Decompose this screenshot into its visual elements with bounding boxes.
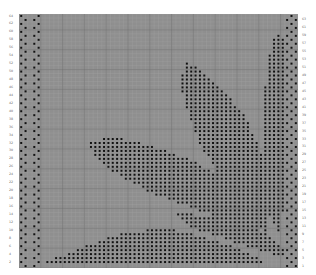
row-label: 40 [9, 110, 13, 113]
row-label: 36 [9, 126, 13, 129]
row-label: 39 [302, 114, 306, 117]
row-label: 18 [9, 197, 13, 200]
row-label: 22 [9, 181, 13, 184]
row-label: 31 [302, 145, 306, 148]
row-label: 21 [302, 185, 306, 188]
row-label: 45 [302, 90, 306, 93]
row-label: 50 [9, 70, 13, 73]
right-row-labels: 6361595755535149474543413937353331292725… [299, 14, 316, 268]
row-label: 47 [302, 82, 306, 85]
row-label: 14 [9, 213, 13, 216]
row-label: 6 [9, 245, 11, 248]
row-label: 51 [302, 66, 306, 69]
knitting-chart-grid [19, 14, 298, 268]
row-label: 24 [9, 173, 13, 176]
row-label: 9 [302, 233, 304, 236]
row-label: 53 [302, 58, 306, 61]
row-label: 37 [302, 122, 306, 125]
row-label: 59 [302, 34, 306, 37]
row-label: 32 [9, 142, 13, 145]
row-label: 29 [302, 153, 306, 156]
row-label: 56 [9, 46, 13, 49]
row-label: 8 [9, 237, 11, 240]
row-label: 5 [302, 249, 304, 252]
row-label: 2 [9, 261, 11, 264]
row-label: 15 [302, 209, 306, 212]
row-label: 57 [302, 42, 306, 45]
row-label: 13 [302, 217, 306, 220]
chart-canvas [19, 14, 298, 268]
row-label: 23 [302, 177, 306, 180]
row-label: 52 [9, 62, 13, 65]
row-label: 63 [302, 18, 306, 21]
row-label: 43 [302, 98, 306, 101]
row-label: 7 [302, 241, 304, 244]
row-label: 34 [9, 134, 13, 137]
row-label: 3 [302, 257, 304, 260]
row-label: 41 [302, 106, 306, 109]
row-label: 19 [302, 193, 306, 196]
row-label: 20 [9, 189, 13, 192]
row-label: 49 [302, 74, 306, 77]
row-label: 42 [9, 102, 13, 105]
row-label: 44 [9, 94, 13, 97]
row-label: 62 [9, 22, 13, 25]
row-label: 60 [9, 30, 13, 33]
row-label: 30 [9, 149, 13, 152]
row-label: 12 [9, 221, 13, 224]
row-label: 4 [9, 253, 11, 256]
row-label: 35 [302, 130, 306, 133]
row-label: 1 [302, 265, 304, 268]
left-row-labels: 6462605856545250484644424038363432302826… [0, 14, 18, 268]
row-label: 10 [9, 229, 13, 232]
row-label: 17 [302, 201, 306, 204]
row-label: 33 [302, 138, 306, 141]
row-label: 28 [9, 157, 13, 160]
row-label: 61 [302, 26, 306, 29]
row-label: 46 [9, 86, 13, 89]
row-label: 48 [9, 78, 13, 81]
row-label: 25 [302, 169, 306, 172]
row-label: 16 [9, 205, 13, 208]
row-label: 64 [9, 15, 13, 18]
row-label: 58 [9, 38, 13, 41]
row-label: 55 [302, 50, 306, 53]
row-label: 11 [302, 225, 306, 228]
row-label: 54 [9, 54, 13, 57]
row-label: 27 [302, 161, 306, 164]
row-label: 38 [9, 118, 13, 121]
row-label: 26 [9, 165, 13, 168]
